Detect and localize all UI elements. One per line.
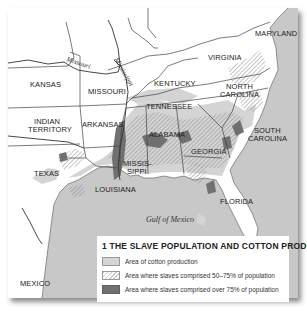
label-tennessee: TENNESSEE (146, 103, 192, 111)
label-maryland: MARYLAND (255, 30, 297, 38)
legend-item-label: Area where slaves comprised over 75% of … (125, 286, 279, 293)
label-texas: TEXAS (34, 170, 59, 178)
legend-item-label: Area where slaves comprised 50–75% of po… (125, 272, 275, 279)
label-georgia: GEORGIA (191, 148, 227, 156)
label-gulf-of-mexico: Gulf of Mexico (146, 215, 194, 224)
legend-item-cotton: Area of cotton production (102, 256, 198, 266)
label-north-carolina-2: CAROLINA (220, 91, 259, 99)
label-arkansas: ARKANSAS (82, 121, 124, 129)
label-south-carolina-2: CAROLINA (248, 135, 287, 143)
label-kansas: KANSAS (30, 81, 61, 89)
legend-title: 1 THE SLAVE POPULATION AND COTTON PRODUC… (102, 241, 307, 251)
legend-item-over-75: Area where slaves comprised over 75% of … (102, 284, 279, 294)
hatched-swatch-icon (102, 271, 120, 280)
legend-item-50-75: Area where slaves comprised 50–75% of po… (102, 270, 275, 280)
label-missouri: MISSOURI (88, 88, 126, 96)
label-florida: FLORIDA (220, 198, 253, 206)
label-louisiana: LOUISIANA (95, 186, 136, 194)
label-kentucky: KENTUCKY (154, 80, 196, 88)
label-alabama: ALABAMA (149, 131, 185, 139)
label-indian-territory-2: TERRITORY (28, 126, 72, 134)
map-legend: 1 THE SLAVE POPULATION AND COTTON PRODUC… (97, 236, 289, 302)
label-virginia: VIRGINIA (208, 54, 242, 62)
dark-gray-swatch-icon (102, 285, 120, 294)
legend-item-label: Area of cotton production (125, 258, 198, 265)
light-gray-swatch-icon (102, 257, 120, 266)
label-mississippi-2: SIPPI (127, 168, 147, 176)
label-mexico: MEXICO (20, 280, 50, 288)
